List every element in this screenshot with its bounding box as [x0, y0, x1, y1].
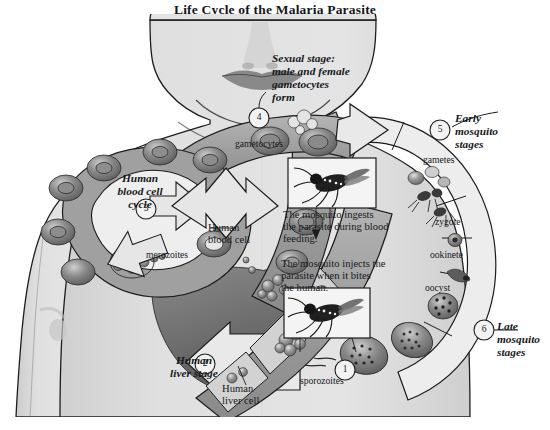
label-oocyst: oocyst — [425, 283, 450, 294]
label-ookinete: ookinete — [430, 250, 463, 261]
label-human-blood-cell-line-2: blood cell — [208, 234, 272, 246]
stage-5-heading: Early mosquito stages — [455, 112, 545, 151]
stage-5-heading-line-3: stages — [455, 138, 545, 151]
label-gametocytes: gametocytes — [235, 139, 283, 150]
stage-2-heading-line-2: liver stage — [152, 367, 236, 380]
stage-6-heading-line-2: mosquito — [497, 333, 550, 346]
callout-ingest-line-3: feeding. — [283, 233, 405, 245]
stage-6-heading-line-3: stages — [497, 346, 550, 359]
stage-3-heading-line-2: blood cell — [90, 185, 190, 198]
label-human-liver-cell: Human liver cell — [222, 383, 284, 407]
callout-inject-line-1: The mosquito injects the — [281, 258, 407, 270]
callout-inject-line-2: parasite when it bites — [281, 270, 407, 282]
stage-5-number: 5 — [434, 124, 446, 134]
stage-3-number: 3 — [140, 203, 152, 213]
stage-6-heading: Late mosquito stages — [497, 320, 550, 359]
callout-ingest-line-1: The mosquito ingests — [283, 209, 405, 221]
stage-1-number: 1 — [339, 364, 351, 374]
stage-6-heading-line-1: Late — [497, 320, 550, 333]
stage-5-heading-line-2: mosquito — [455, 125, 545, 138]
stage-4-heading-line-2: male and female — [272, 65, 402, 78]
stage-4-heading-line-3: gametocytes — [272, 78, 402, 91]
callout-inject-text: The mosquito injects the parasite when i… — [281, 258, 407, 294]
stage-6-number: 6 — [478, 324, 490, 334]
stage-4-heading-line-4: form — [272, 91, 402, 104]
label-human-blood-cell-line-1: Human — [208, 222, 272, 234]
label-human-blood-cell: Human blood cell — [208, 222, 272, 246]
label-sporozoites: sporozoites — [300, 376, 344, 387]
callout-ingest-line-2: the parasite during blood — [283, 221, 405, 233]
label-human-liver-cell-line-1: Human — [222, 383, 284, 395]
stage-4-heading: Sexual stage: male and female gametocyte… — [272, 52, 402, 104]
label-human-liver-cell-line-2: liver cell — [222, 395, 284, 407]
stage-3-heading-line-1: Human — [90, 172, 190, 185]
stage-2-number: 2 — [199, 358, 211, 368]
figure-canvas: Life Cycle of the Malaria Parasite — [0, 0, 550, 430]
stage-2-heading: Human liver stage — [152, 354, 236, 380]
stage-4-heading-line-1: Sexual stage: — [272, 52, 402, 65]
stage-4-number: 4 — [253, 112, 265, 122]
callout-ingest-text: The mosquito ingests the parasite during… — [283, 209, 405, 245]
label-gametes: gametes — [423, 155, 454, 166]
stage-5-heading-line-1: Early — [455, 112, 545, 125]
callout-inject-line-3: the human. — [281, 282, 407, 294]
label-merozoites: merozoites — [146, 250, 188, 261]
stage-2-heading-line-1: Human — [152, 354, 236, 367]
label-zygote: zygote — [435, 217, 461, 228]
